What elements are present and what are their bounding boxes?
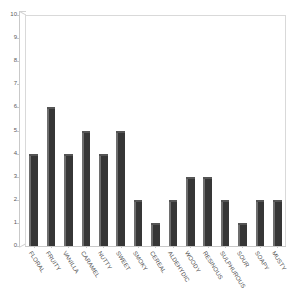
bar[interactable] (29, 154, 38, 246)
bar-column[interactable] (25, 15, 42, 246)
bar-column[interactable] (42, 15, 59, 246)
bar-column[interactable] (199, 15, 216, 246)
bar[interactable] (116, 131, 125, 247)
x-axis-tick-mark (68, 246, 69, 248)
bar-column[interactable] (129, 15, 146, 246)
bar-column[interactable] (60, 15, 77, 246)
x-axis-tick-mark (86, 246, 87, 248)
bar[interactable] (256, 200, 265, 246)
x-axis-tick-mark (190, 246, 191, 248)
bar-front-face (171, 202, 178, 246)
y-axis-tick-label: 8 (14, 56, 17, 64)
bar[interactable] (99, 154, 108, 246)
bar-front-face (84, 133, 91, 247)
bar-column[interactable] (77, 15, 94, 246)
x-axis-label-slot: VANILLA (60, 248, 77, 306)
bar-top-face (238, 223, 247, 225)
bar-left-face (221, 202, 223, 246)
bar[interactable] (221, 200, 230, 246)
bar-column[interactable] (269, 15, 286, 246)
y-axis-tick-label: 1 (14, 218, 17, 226)
x-axis-label-slot: SWEET (112, 248, 129, 306)
bar-top-face (151, 223, 160, 225)
bar-left-face (64, 156, 66, 246)
bar-top-face (29, 154, 38, 156)
y-axis-tick-mark (17, 61, 20, 62)
bar[interactable] (134, 200, 143, 246)
bar-top-face (116, 131, 125, 133)
x-axis-tick-mark (121, 246, 122, 248)
bar[interactable] (151, 223, 160, 246)
x-axis-tick-label: SOUR (236, 250, 251, 269)
x-axis-label-slot: NUTTY (95, 248, 112, 306)
bar-column[interactable] (251, 15, 268, 246)
bar[interactable] (64, 154, 73, 246)
bar-column[interactable] (164, 15, 181, 246)
bar-left-face (169, 202, 171, 246)
bar-column[interactable] (95, 15, 112, 246)
bar[interactable] (47, 107, 56, 246)
bar-top-face (169, 200, 178, 202)
bar-left-face (29, 156, 31, 246)
bar-front-face (118, 133, 125, 247)
x-axis-tick-mark (51, 246, 52, 248)
bar-left-face (47, 109, 49, 246)
y-axis-tick-mark (17, 200, 20, 201)
y-axis-tick-label: 0 (14, 241, 17, 249)
bar[interactable] (169, 200, 178, 246)
x-axis-label-slot: CARAMEL (77, 248, 94, 306)
bar-column[interactable] (182, 15, 199, 246)
x-axis-label-slot: SOAPY (251, 248, 268, 306)
bar-front-face (188, 179, 195, 246)
y-axis-tick-label: 2 (14, 195, 17, 203)
y-axis-tick-mark (17, 223, 20, 224)
bar-top-face (203, 177, 212, 179)
x-axis-tick-mark (173, 246, 174, 248)
bar-front-face (31, 156, 38, 246)
y-axis-tick-mark (17, 177, 20, 178)
bar-column[interactable] (147, 15, 164, 246)
bar-top-face (221, 200, 230, 202)
bar-column[interactable] (234, 15, 251, 246)
y-axis-tick-mark (17, 38, 20, 39)
bar-left-face (82, 133, 84, 247)
bar-front-face (153, 225, 160, 246)
bar-column[interactable] (216, 15, 233, 246)
x-axis-label-slot: SMOKY (129, 248, 146, 306)
bar[interactable] (203, 177, 212, 246)
x-axis-label-slot: RESINOUS (199, 248, 216, 306)
bar-top-face (186, 177, 195, 179)
bar[interactable] (186, 177, 195, 246)
y-axis-tick-label: 9 (14, 33, 17, 41)
bar-top-face (134, 200, 143, 202)
bar-top-face (82, 131, 91, 133)
bar-column[interactable] (112, 15, 129, 246)
bar-left-face (273, 202, 275, 246)
x-axis-tick-mark (155, 246, 156, 248)
bar-front-face (136, 202, 143, 246)
y-axis-tick-mark (17, 15, 20, 16)
x-axis-tick-mark (260, 246, 261, 248)
x-axis-label-slot: CEREAL (147, 248, 164, 306)
bar-front-face (205, 179, 212, 246)
x-axis-tick-mark (34, 246, 35, 248)
bar-front-face (240, 225, 247, 246)
bar-left-face (116, 133, 118, 247)
x-axis-tick-label: SOAPY (253, 250, 270, 272)
bar[interactable] (273, 200, 282, 246)
bar-left-face (186, 179, 188, 246)
bar-left-face (134, 202, 136, 246)
bar[interactable] (238, 223, 247, 246)
x-axis-tick-mark (208, 246, 209, 248)
bar-top-face (64, 154, 73, 156)
bar-left-face (203, 179, 205, 246)
bar-left-face (151, 225, 153, 246)
bar-front-face (101, 156, 108, 246)
x-axis-label-slot: SOUR (234, 248, 251, 306)
bar-left-face (99, 156, 101, 246)
bar[interactable] (82, 131, 91, 247)
bar-front-face (223, 202, 230, 246)
bar-front-face (49, 109, 56, 246)
x-axis-label-slot: ALDEHYDIC (164, 248, 181, 306)
plot-area (25, 15, 286, 246)
